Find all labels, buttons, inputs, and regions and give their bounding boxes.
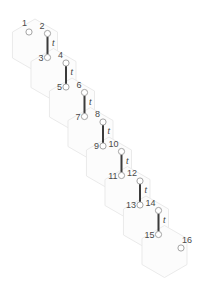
site-node-7 xyxy=(81,113,87,119)
site-node-5 xyxy=(63,84,69,90)
hopping-symbol: t xyxy=(71,67,74,77)
hopping-symbol: t xyxy=(89,97,92,107)
site-label-11: 11 xyxy=(108,171,117,181)
site-node-9 xyxy=(100,143,106,149)
site-node-13 xyxy=(137,202,143,208)
site-label-14: 14 xyxy=(145,198,155,208)
site-node-3 xyxy=(44,54,50,60)
lattice-figure: 12345678910111213141516 ttttttt xyxy=(0,0,212,293)
site-label-3: 3 xyxy=(38,53,43,63)
site-label-16: 16 xyxy=(182,235,192,245)
site-node-2 xyxy=(44,30,50,36)
site-label-10: 10 xyxy=(108,139,118,149)
hopping-symbol: t xyxy=(163,215,166,225)
site-label-4: 4 xyxy=(58,50,63,60)
site-node-4 xyxy=(63,60,69,66)
site-label-15: 15 xyxy=(144,230,154,240)
site-label-7: 7 xyxy=(75,112,80,122)
site-node-1 xyxy=(26,29,32,35)
site-node-6 xyxy=(81,89,87,95)
site-node-11 xyxy=(118,172,124,178)
site-label-9: 9 xyxy=(94,141,99,151)
site-label-2: 2 xyxy=(39,21,44,31)
lattice-canvas: 12345678910111213141516 ttttttt xyxy=(0,0,212,293)
site-node-8 xyxy=(100,119,106,125)
site-node-12 xyxy=(137,178,143,184)
site-node-15 xyxy=(155,231,161,237)
site-label-12: 12 xyxy=(127,168,137,178)
site-label-8: 8 xyxy=(95,109,100,119)
hopping-symbol: t xyxy=(52,38,55,48)
site-label-1: 1 xyxy=(22,18,27,28)
site-label-5: 5 xyxy=(57,82,62,92)
hopping-symbol: t xyxy=(108,126,111,136)
site-node-14 xyxy=(155,207,161,213)
hopping-symbol: t xyxy=(145,185,148,195)
site-label-6: 6 xyxy=(76,80,81,90)
site-node-10 xyxy=(118,148,124,154)
site-node-16 xyxy=(178,245,184,251)
hopping-symbol: t xyxy=(126,156,129,166)
site-label-13: 13 xyxy=(126,200,136,210)
